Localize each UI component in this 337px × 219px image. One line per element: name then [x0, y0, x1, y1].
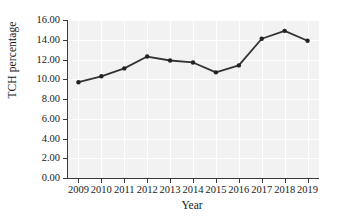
data-point-marker [99, 74, 103, 78]
data-point-marker [122, 66, 126, 70]
data-series-line [0, 0, 337, 219]
data-point-marker [214, 70, 218, 74]
data-point-marker [145, 54, 149, 58]
data-point-marker [76, 80, 80, 84]
data-point-marker [191, 60, 195, 64]
x-axis-title: Year [67, 199, 317, 211]
data-point-marker [237, 63, 241, 67]
chart-figure: TCH percentage 0.002.004.006.008.0010.00… [0, 0, 337, 219]
data-point-marker [168, 58, 172, 62]
data-point-marker [282, 29, 286, 33]
data-point-marker [260, 37, 264, 41]
series-line [78, 31, 307, 82]
data-point-marker [305, 39, 309, 43]
